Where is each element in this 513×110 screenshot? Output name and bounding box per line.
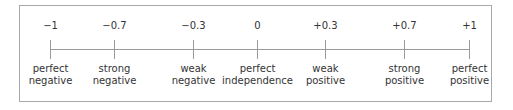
- scale-label-line1: perfect: [222, 63, 293, 75]
- scale-tick: [469, 40, 470, 59]
- scale-label: strongnegative: [93, 63, 137, 87]
- scale-axis-line: [50, 49, 470, 50]
- scale-label-line1: perfect: [450, 63, 489, 75]
- scale-tick: [50, 40, 51, 59]
- scale-value: +0.7: [392, 20, 416, 32]
- scale-value: +1: [462, 20, 477, 32]
- scale-label: perfectindependence: [222, 63, 293, 87]
- scale-label-line2: positive: [306, 75, 345, 87]
- scale-label-line1: weak: [172, 63, 216, 75]
- scale-label-line2: negative: [29, 75, 73, 87]
- scale-tick: [325, 40, 326, 59]
- scale-tick: [193, 40, 194, 59]
- scale-label-line1: strong: [385, 63, 424, 75]
- scale-value: −0.7: [102, 20, 126, 32]
- scale-label-line1: perfect: [29, 63, 73, 75]
- scale-tick: [257, 40, 258, 59]
- scale-label: strongpositive: [385, 63, 424, 87]
- scale-value: +0.3: [313, 20, 337, 32]
- scale-label-line1: strong: [93, 63, 137, 75]
- scale-value: −0.3: [181, 20, 205, 32]
- scale-label: weaknegative: [172, 63, 216, 87]
- scale-label-line1: weak: [306, 63, 345, 75]
- scale-label-line2: positive: [450, 75, 489, 87]
- scale-label-line2: negative: [93, 75, 137, 87]
- scale-label-line2: independence: [222, 75, 293, 87]
- scale-tick: [404, 40, 405, 59]
- scale-label: perfectpositive: [450, 63, 489, 87]
- scale-value: −1: [43, 20, 58, 32]
- scale-label-line2: negative: [172, 75, 216, 87]
- scale-value: 0: [254, 20, 260, 32]
- scale-label-line2: positive: [385, 75, 424, 87]
- scale-label: perfectnegative: [29, 63, 73, 87]
- scale-tick: [114, 40, 115, 59]
- scale-label: weakpositive: [306, 63, 345, 87]
